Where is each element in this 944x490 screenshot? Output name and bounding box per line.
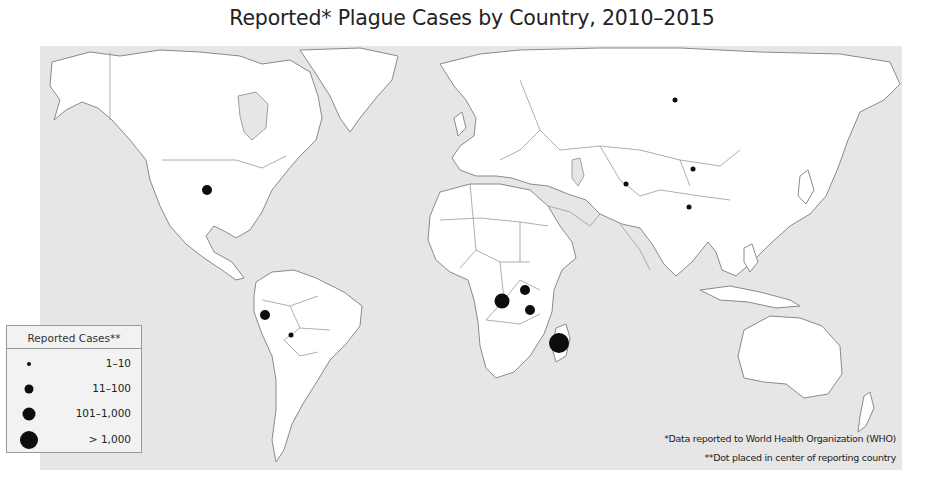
plague-marker-united-states xyxy=(202,185,212,195)
map-title: Reported* Plague Cases by Country, 2010–… xyxy=(0,6,944,30)
legend-dot-icon xyxy=(25,385,34,394)
plague-marker-kyrgyzstan xyxy=(624,182,629,187)
north-america-landmass xyxy=(50,50,322,280)
legend-item-11-100: 11–100 xyxy=(7,377,141,401)
plague-marker-russia xyxy=(673,98,678,103)
legend-item-over-1000: > 1,000 xyxy=(7,428,141,452)
indonesia-islands xyxy=(700,286,800,308)
legend-divider xyxy=(7,348,141,349)
legend-item-1-10: 1–10 xyxy=(7,352,141,376)
legend-label: 101–1,000 xyxy=(76,407,131,419)
plague-marker-peru xyxy=(260,310,270,320)
world-map xyxy=(40,46,902,470)
footnote-dot-placement: **Dot placed in center of reporting coun… xyxy=(704,452,896,463)
plague-marker-uganda xyxy=(520,285,530,295)
britain-islands xyxy=(454,112,466,136)
legend-item-101-1000: 101–1,000 xyxy=(7,402,141,426)
plague-marker-bolivia xyxy=(289,333,294,338)
legend-dot-icon xyxy=(27,362,31,366)
legend-label: 11–100 xyxy=(92,382,131,394)
legend-label: > 1,000 xyxy=(89,433,131,445)
australia-landmass xyxy=(738,316,842,398)
plague-marker-mongolia xyxy=(691,167,696,172)
legend-label: 1–10 xyxy=(106,357,131,369)
plague-marker-tanzania xyxy=(525,305,535,315)
new-zealand-islands xyxy=(858,392,874,432)
footnote-who: *Data reported to World Health Organizat… xyxy=(664,433,896,444)
legend: Reported Cases** 1–10 11–100 101–1,000 >… xyxy=(6,325,142,453)
legend-title: Reported Cases** xyxy=(7,332,141,344)
plague-marker-china xyxy=(687,205,692,210)
plague-marker-madagascar xyxy=(549,333,569,353)
world-map-outline xyxy=(40,46,902,470)
south-america-landmass xyxy=(254,270,362,462)
legend-dot-icon xyxy=(23,408,36,421)
legend-dot-icon xyxy=(20,431,38,449)
plague-marker-democratic-republic-of-the-congo xyxy=(495,294,510,309)
